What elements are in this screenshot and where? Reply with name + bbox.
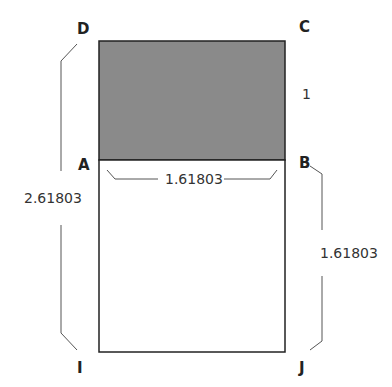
- bracket-right-top: [310, 166, 322, 230]
- measure-square-side: 1: [302, 86, 311, 102]
- point-label-B: B: [299, 154, 310, 172]
- measure-lower-BJ: 1.61803: [320, 245, 378, 261]
- bracket-left-top: [61, 44, 77, 171]
- golden-rectangle-diagram: D C A B I J 1 1.61803 2.61803 1.61803: [0, 0, 392, 387]
- point-label-C: C: [299, 18, 310, 36]
- measure-total-DI: 2.61803: [24, 190, 82, 206]
- point-label-I: I: [77, 359, 83, 377]
- bracket-right-bottom: [310, 276, 322, 350]
- point-label-D: D: [77, 20, 89, 38]
- bracket-left-bottom: [61, 225, 77, 350]
- lower-region-ABJI: [99, 160, 285, 352]
- point-label-J: J: [298, 359, 305, 377]
- measure-width-AB: 1.61803: [165, 171, 223, 187]
- point-label-A: A: [78, 156, 90, 174]
- shaded-region-DCBA: [99, 41, 285, 160]
